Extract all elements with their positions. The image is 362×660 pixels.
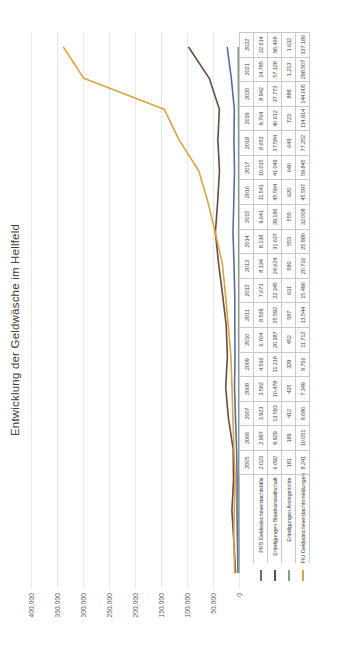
legend-series-label: PKS Geldwäscheverdachtsfälle [254,475,268,564]
table-cell-value: 11.218 [268,352,282,377]
legend-color-swatch [302,570,304,581]
table-column-header-year: 2012 [240,278,254,303]
table-cell-value: 555 [282,205,296,230]
table-column-header-year: 2006 [240,426,254,451]
legend-series-label: Erledigungen Amtsgerichte [282,475,296,564]
table-cell-value: 425 [282,377,296,402]
rotated-figure-wrapper: Entwicklung der Geldwäsche im Hellfeld 0… [5,10,357,650]
table-header-row: 2005200620072008200920102011201220132014… [240,33,254,589]
table-cell-value: 15.496 [296,278,310,303]
table-column-header-year: 2017 [240,155,254,180]
table-cell-value: 8.942 [254,82,268,107]
table-cell-value: 59.845 [296,155,310,180]
table-cell-value: 6.764 [254,327,268,352]
table-cell-value: 587 [282,303,296,328]
series-line [64,47,236,572]
table-cell-value: 10.015 [254,155,268,180]
table-cell-value: 22.614 [254,33,268,58]
table-cell-value: 329 [282,352,296,377]
page-title: Entwicklung der Geldwäsche im Hellfeld [9,10,21,650]
table: 2005200620072008200920102011201220132014… [239,32,310,588]
table-cell-value: 9.756 [296,352,310,377]
table-cell-value: 4.566 [254,352,268,377]
table-cell-value: 8.569 [254,303,268,328]
table-cell-value: 31.637 [268,229,282,254]
table-column-header-year: 2008 [240,377,254,402]
legend-color-swatch [274,570,276,581]
table-column-header-year: 2020 [240,82,254,107]
table-cell-value: 3.582 [254,377,268,402]
table-row: PKS Geldwäscheverdachtsfälle2.0232.9973.… [254,33,268,589]
table-cell-value: 6.692 [268,450,282,475]
table-cell-value: 337.186 [296,33,310,58]
table-column-header-year: 2015 [240,205,254,230]
table-column-header-year: 2009 [240,352,254,377]
table-cell-value: 22.345 [268,278,282,303]
table-column-header-year: 2010 [240,327,254,352]
table-row: Erledigungen Amtsgerichte181189412425329… [282,33,296,589]
table-row: Erledigungen Staatsanwaltschaft6.6929.92… [268,33,282,589]
table-cell-value: 14.785 [254,57,268,82]
legend-color-swatch-cell [282,563,296,588]
table-cell-value: 1.632 [282,33,296,58]
table-column-header-year: 2013 [240,254,254,279]
table-column-header-year: 2022 [240,33,254,58]
table-cell-value: 452 [282,327,296,352]
table-cell-value: 10.478 [268,377,282,402]
table-column-header-year: 2019 [240,106,254,131]
table-cell-value: 189 [282,426,296,451]
table-body: PKS Geldwäscheverdachtsfälle2.0232.9973.… [254,33,310,589]
legend-swatch-corner [240,563,254,588]
table-cell-value: 8.241 [296,450,310,475]
y-tick-label: 400.000 [28,593,35,618]
table-cell-value: 9.764 [254,106,268,131]
table-cell-value: 620 [282,180,296,205]
table-cell-value: 9.929 [268,426,282,451]
y-tick-label: 300.000 [80,593,87,618]
table-cell-value: 77.252 [296,131,310,156]
plot-area: 050.000100.000150.000200.000250.000300.0… [31,32,239,588]
data-table: 2005200620072008200920102011201220132014… [239,32,310,588]
table-cell-value: 20.716 [296,254,310,279]
table-column-header-year: 2005 [240,450,254,475]
table-column-header-year: 2011 [240,303,254,328]
table-cell-value: 13.593 [268,401,282,426]
table-column-header-year: 2016 [240,180,254,205]
table-cell-value: 11.712 [296,327,310,352]
table-column-header-year: 2007 [240,401,254,426]
table-cell-value: 9.080 [296,401,310,426]
table-column-header-year: 2018 [240,131,254,156]
table-cell-value: 723 [282,106,296,131]
legend-color-swatch [260,570,262,581]
table-cell-value: 553 [282,229,296,254]
table-cell-value: 298.507 [296,57,310,82]
table-cell-value: 32.008 [296,205,310,230]
table-cell-value: 144.005 [296,82,310,107]
y-tick-label: 350.000 [54,593,61,618]
table-cell-value: 888 [282,82,296,107]
table-cell-value: 114.914 [296,106,310,131]
y-tick-label: 250.000 [106,593,113,618]
table-cell-value: 37.584 [268,131,282,156]
legend-color-swatch [288,570,290,581]
table-cell-value: 640 [282,155,296,180]
table-cell-value: 8.134 [254,254,268,279]
table-cell-value: 45.504 [268,180,282,205]
table-cell-value: 3.923 [254,401,268,426]
legend-color-swatch-cell [254,563,268,588]
y-tick-label: 150.000 [158,593,165,618]
table-cell-value: 2.023 [254,450,268,475]
table-cell-value: 40.612 [268,106,282,131]
table-cell-value: 96.468 [268,33,282,58]
table-cell-value: 7.349 [296,377,310,402]
table-cell-value: 9.641 [254,205,268,230]
table-cell-value: 39.186 [268,205,282,230]
y-tick-label: 100.000 [184,593,191,618]
table-cell-value: 20.387 [268,327,282,352]
table-cell-value: 45.597 [296,180,310,205]
table-cell-value: 25.592 [268,303,282,328]
table-cell-value: 8.138 [254,229,268,254]
table-cell-value: 649 [282,131,296,156]
table-cell-value: 11.541 [254,180,268,205]
chart-page: Entwicklung der Geldwäsche im Hellfeld 0… [0,0,362,660]
